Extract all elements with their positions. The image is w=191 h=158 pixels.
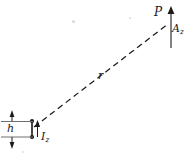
scan-speck [129,17,131,19]
dimension-arrowhead-up-icon [10,110,15,117]
label-vector-potential-az: Az [172,23,184,36]
dimension-arrowhead-down-icon [10,142,15,149]
current-arrowhead-icon [35,120,40,127]
dipole-diagram-figure: P Az r h Iz [0,0,191,158]
label-current-iz: Iz [41,131,49,144]
diagram-canvas [0,0,191,158]
scan-speck [72,20,75,23]
label-observation-point-p: P [154,6,162,18]
label-distance-r: r [98,70,103,81]
label-vector-potential-subscript: z [180,27,184,36]
scan-speck [22,151,24,153]
vector-potential-arrowhead-icon [168,6,175,14]
label-dipole-length-h: h [7,123,14,134]
label-vector-potential-base: A [172,22,180,35]
label-current-subscript: z [45,135,49,144]
